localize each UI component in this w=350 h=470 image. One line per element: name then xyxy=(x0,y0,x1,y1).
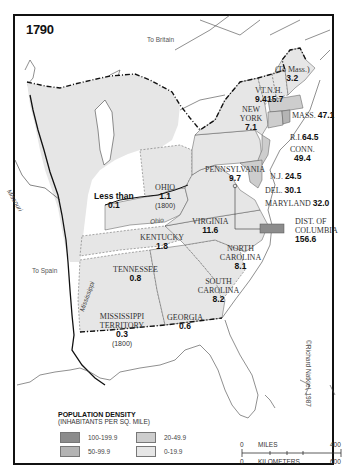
region-vermont: VT. 9.4 xyxy=(255,86,267,104)
region-kentucky: KENTUCKY 1.8 xyxy=(140,233,184,251)
legend-item-100-199: 100-199.9 xyxy=(60,432,117,443)
region-western-territory: Less than 0.1 xyxy=(94,192,134,210)
legend-swatch xyxy=(136,446,156,457)
scale-miles-label: MILES xyxy=(258,441,278,448)
to-britain-label: To Britain xyxy=(147,36,174,43)
dc-swatch xyxy=(260,224,284,233)
legend-title: POPULATION DENSITY xyxy=(58,411,298,418)
legend-item-20-49: 20-49.9 xyxy=(136,432,186,443)
region-virginia: VIRGINIA 11.6 xyxy=(192,217,228,235)
map-year: 1790 xyxy=(26,22,54,37)
legend-swatch xyxy=(60,446,80,457)
region-ohio: OHIO 1.1 (1800) xyxy=(155,183,175,210)
scale-miles-min: 0 xyxy=(240,441,244,448)
region-maryland: MARYLAND 32.0 xyxy=(265,199,329,208)
legend-swatch xyxy=(60,432,80,443)
legend-swatch xyxy=(136,432,156,443)
region-georgia: GEORGIA 0.6 xyxy=(167,313,203,331)
region-new-york: NEW YORK 7.1 xyxy=(236,105,266,132)
legend-item-50-99: 50-99.9 xyxy=(60,446,110,457)
region-south-carolina: SOUTH CAROLINA 8.2 xyxy=(196,277,241,304)
region-new-hampshire: N.H. 15.7 xyxy=(267,86,284,104)
scale-km-label: KILOMETERS xyxy=(258,458,300,465)
scale-bar xyxy=(242,449,341,457)
legend: POPULATION DENSITY (INHABITANTS PER SQ. … xyxy=(58,411,298,425)
scale-km-max: 600 xyxy=(330,458,341,465)
to-spain-label: To Spain xyxy=(32,267,57,274)
legend-subtitle: (INHABITANTS PER SQ. MILE) xyxy=(58,418,298,425)
region-new-jersey: N.J. 24.5 xyxy=(270,172,301,181)
region-massachusetts: MASS. 47.1 xyxy=(292,111,334,120)
region-connecticut: CONN. 49.4 xyxy=(290,145,315,163)
region-north-carolina: NORTH CAROLINA 8.1 xyxy=(218,244,263,271)
region-rhode-island: R.I.64.5 xyxy=(290,133,319,142)
map-credit: ©Richard Natkiel, 1987 xyxy=(305,340,312,407)
region-tennessee: TENNESSEE 0.8 xyxy=(113,265,158,283)
scale-miles-max: 400 xyxy=(330,441,341,448)
region-mississippi-territory: MISSISSIPPI TERRITORY 0.3 (1800) xyxy=(97,312,147,348)
region-pennsylvania: PENNSYLVANIA 9.7 xyxy=(205,165,265,183)
region-delaware: DEL. 30.1 xyxy=(265,186,301,195)
scale-km-min: 0 xyxy=(240,458,244,465)
region-dc: DIST. OF COLUMBIA 156.6 xyxy=(295,217,345,244)
region-maine: (To Mass.) 3.2 xyxy=(275,65,310,83)
legend-item-0-19: 0-19.9 xyxy=(136,446,182,457)
